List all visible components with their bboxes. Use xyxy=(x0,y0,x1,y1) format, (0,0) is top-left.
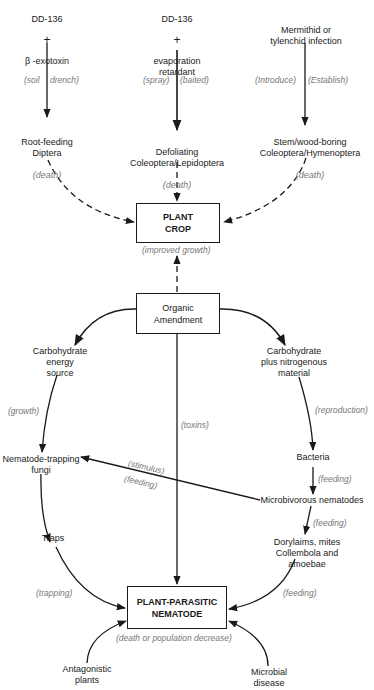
label-toxins: (toxins) xyxy=(181,420,209,430)
pest-effect: (death) xyxy=(255,170,365,181)
microbivorous-nematodes: Microbivorous nematodes xyxy=(256,495,368,506)
plant-crop-effect: (improved growth) xyxy=(142,245,211,255)
pest-effect: (death) xyxy=(122,180,232,191)
treatment-mermithid-infection: Mermithid or tylenchid infection xyxy=(262,14,350,58)
label-baited: (baited) xyxy=(180,75,209,85)
nematode-effect: (death or population decrease) xyxy=(116,633,232,643)
treatment-line1: DD-136 xyxy=(142,14,212,25)
bacteria: Bacteria xyxy=(290,452,336,463)
nematode-trapping-fungi: Nematode-trapping fungi xyxy=(0,454,82,476)
nematode-management-diagram: DD-136 + β -exotoxin DD-136 + evaporatio… xyxy=(0,0,374,690)
carbohydrate-nitrogenous-material: Carbohydrate plus nitrogenous material xyxy=(250,346,338,379)
traps: Traps xyxy=(38,533,68,544)
label-drench: drench) xyxy=(50,75,79,85)
pest-name: Stem/wood-boring Coleoptera/Hymenoptera xyxy=(255,137,365,159)
pest-stem-wood-boring: Stem/wood-boring Coleoptera/Hymenoptera … xyxy=(255,126,365,192)
pest-name: Defoliating Coleoptera/Lepidoptera xyxy=(122,147,232,169)
label-growth: (growth) xyxy=(8,406,39,416)
label-introduce: (Introduce) xyxy=(255,75,296,85)
pest-effect: (death) xyxy=(12,170,82,181)
plus-sign: + xyxy=(142,36,212,45)
treatment-line2: β -exotoxin xyxy=(17,56,77,67)
label-reproduction: (reproduction) xyxy=(315,405,368,415)
label-establish: (Establish) xyxy=(308,75,348,85)
label-feeding-microbivorous: (feeding) xyxy=(313,518,347,528)
label-soil: (soil xyxy=(24,75,40,85)
label-feeding-bacteria: (feeding) xyxy=(318,474,352,484)
treatment-dd136-exotoxin: DD-136 + β -exotoxin xyxy=(17,3,77,78)
label-trapping: (trapping) xyxy=(36,588,72,598)
plant-crop-box: PLANT CROP xyxy=(136,203,220,243)
label-spray: (spray) xyxy=(143,75,169,85)
plant-parasitic-nematode-box: PLANT-PARASITIC NEMATODE xyxy=(127,586,227,629)
antagonistic-plants: Antagonistic plants xyxy=(58,664,116,686)
pest-defoliating-coleoptera-lepidoptera: Defoliating Coleoptera/Lepidoptera (deat… xyxy=(122,136,232,202)
treatment-line1: DD-136 xyxy=(17,14,77,25)
carbohydrate-energy-source: Carbohydrate energy source xyxy=(25,346,95,379)
organic-amendment-box: Organic Amendment xyxy=(136,293,220,334)
dorylaims-mites-collembola-amoebae: Dorylaims, mites Collembola and amoebae xyxy=(257,537,357,570)
label-feeding-predators: (feeding) xyxy=(283,588,317,598)
pest-name: Root-feeding Diptera xyxy=(12,137,82,159)
plus-sign: + xyxy=(17,36,77,45)
microbial-disease: Microbial disease xyxy=(245,667,293,689)
treatment-line1: Mermithid or tylenchid infection xyxy=(262,25,350,47)
pest-root-feeding-diptera: Root-feeding Diptera (death) xyxy=(12,126,82,192)
